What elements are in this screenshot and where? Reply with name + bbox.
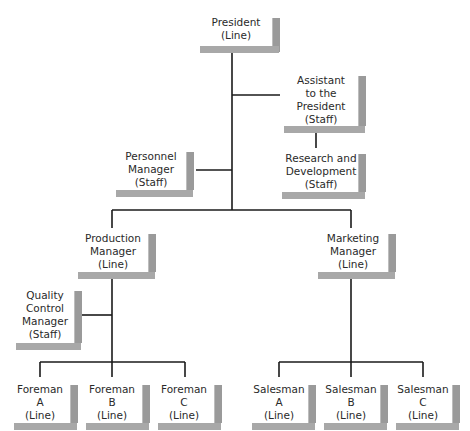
node-type: (Line) [318,258,388,271]
node-assistant-to-president: Assistant to the President (Staff) [284,70,358,128]
node-president: President (Line) [200,12,272,42]
node-title: B [324,396,378,409]
node-production-manager: Production Manager (Line) [78,228,148,273]
org-chart: President (Line) Assistant to the Presid… [0,0,470,431]
node-type: (Line) [158,409,210,422]
node-title: B [86,396,138,409]
box-shadow-bottom [14,423,77,430]
node-title: Production [78,232,148,245]
box-shadow-bottom [282,192,365,199]
box-shadow-right [142,385,150,423]
node-title: Manager [116,163,186,176]
node-title: C [396,396,450,409]
node-type: (Staff) [282,178,360,191]
node-type: (Staff) [284,113,358,126]
node-title: Foreman [14,383,66,396]
node-type: (Line) [86,409,138,422]
node-salesman-b: Salesman B (Line) [324,379,378,421]
box-shadow-bottom [252,423,315,430]
node-title: Salesman [396,383,450,396]
node-type: (Staff) [116,176,186,189]
box-shadow-right [452,385,460,423]
node-title: Marketing [318,232,388,245]
node-title: President [200,16,272,29]
node-type: (Line) [78,258,148,271]
node-type: (Line) [252,409,306,422]
node-title: President [284,100,358,113]
node-quality-control-manager: Quality Control Manager (Staff) [16,285,74,343]
node-marketing-manager: Marketing Manager (Line) [318,228,388,273]
box-shadow-right [358,76,366,126]
node-title: Manager [318,245,388,258]
node-title: Quality [16,289,74,302]
node-title: Foreman [86,383,138,396]
box-shadow-right [388,234,396,272]
box-shadow-right [74,291,82,343]
node-foreman-a: Foreman A (Line) [14,379,66,421]
node-foreman-c: Foreman C (Line) [158,379,210,421]
node-type: (Line) [14,409,66,422]
node-title: Personnel [116,150,186,163]
node-title: Foreman [158,383,210,396]
node-title: Development [282,165,360,178]
node-foreman-b: Foreman B (Line) [86,379,138,421]
node-title: A [14,396,66,409]
box-shadow-bottom [284,126,365,133]
box-shadow-right [148,234,156,272]
box-shadow-bottom [158,423,221,430]
node-type: (Line) [200,29,272,42]
node-title: Manager [16,315,74,328]
connector-lines [0,0,470,431]
node-title: Manager [78,245,148,258]
box-shadow-bottom [86,423,149,430]
node-title: Salesman [324,383,378,396]
node-title: Salesman [252,383,306,396]
box-shadow-bottom [200,46,279,53]
box-shadow-bottom [324,423,387,430]
box-shadow-right [186,152,194,190]
node-title: Control [16,302,74,315]
box-shadow-bottom [78,272,155,279]
box-shadow-bottom [16,343,81,350]
node-type: (Staff) [16,328,74,341]
box-shadow-bottom [396,423,459,430]
node-title: A [252,396,306,409]
box-shadow-bottom [116,190,193,197]
node-personnel-manager: Personnel Manager (Staff) [116,146,186,191]
node-type: (Line) [396,409,450,422]
box-shadow-right [214,385,222,423]
node-research-development: Research and Development (Staff) [282,148,360,193]
box-shadow-bottom [318,272,395,279]
node-title: Assistant [284,74,358,87]
node-title: Research and [282,152,360,165]
box-shadow-right [308,385,316,423]
node-title: to the [284,87,358,100]
box-shadow-right [380,385,388,423]
node-salesman-c: Salesman C (Line) [396,379,450,421]
node-title: C [158,396,210,409]
node-type: (Line) [324,409,378,422]
node-salesman-a: Salesman A (Line) [252,379,306,421]
box-shadow-right [70,385,78,423]
